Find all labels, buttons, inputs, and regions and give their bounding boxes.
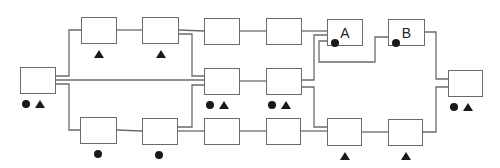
connector-line xyxy=(302,35,327,80)
block-markers xyxy=(450,102,473,112)
block-markers xyxy=(392,38,400,48)
block-markers xyxy=(206,100,229,110)
triangle-marker-icon xyxy=(463,103,473,111)
connector-line xyxy=(302,87,327,127)
connector-line xyxy=(425,32,448,79)
block-diagram-wiring xyxy=(0,0,500,168)
triangle-marker-icon xyxy=(94,50,104,58)
connector-line xyxy=(117,130,142,131)
block-markers xyxy=(22,99,45,109)
triangle-marker-icon xyxy=(156,50,166,58)
block-bot3 xyxy=(204,118,240,145)
block-markers xyxy=(94,149,102,159)
triangle-marker-icon xyxy=(281,101,291,109)
block-bot5 xyxy=(327,118,362,146)
circle-marker-icon xyxy=(331,39,339,47)
block-markers xyxy=(340,151,350,161)
block-top4 xyxy=(266,18,302,45)
block-top3 xyxy=(204,18,240,45)
block-top2 xyxy=(142,17,179,44)
triangle-marker-icon xyxy=(219,101,229,109)
circle-marker-icon xyxy=(392,39,400,47)
block-markers xyxy=(268,100,291,110)
triangle-marker-icon xyxy=(401,152,411,160)
block-markers xyxy=(331,38,339,48)
triangle-marker-icon xyxy=(340,152,350,160)
circle-marker-icon xyxy=(155,151,163,159)
circle-marker-icon xyxy=(94,150,102,158)
block-bot6 xyxy=(388,119,423,146)
block-top1 xyxy=(81,17,117,44)
circle-marker-icon xyxy=(206,101,214,109)
block-label: B xyxy=(402,25,411,41)
connector-line xyxy=(56,84,80,130)
block-label: A xyxy=(340,25,349,41)
block-left xyxy=(20,67,56,94)
block-bot2 xyxy=(142,118,178,145)
block-bot4 xyxy=(266,118,301,145)
block-markers xyxy=(156,49,166,59)
block-mid2 xyxy=(266,68,302,95)
connector-line xyxy=(179,30,204,31)
connector-line xyxy=(178,85,204,127)
block-mid1 xyxy=(204,68,240,95)
triangle-marker-icon xyxy=(35,100,45,108)
block-right xyxy=(448,70,483,97)
block-markers xyxy=(155,150,163,160)
block-markers xyxy=(401,151,411,161)
connector-line xyxy=(56,30,81,76)
circle-marker-icon xyxy=(450,103,458,111)
circle-marker-icon xyxy=(22,100,30,108)
connector-line xyxy=(423,87,448,132)
connector-line xyxy=(179,34,204,76)
circle-marker-icon xyxy=(268,101,276,109)
block-markers xyxy=(94,49,104,59)
block-bot1 xyxy=(80,117,117,144)
